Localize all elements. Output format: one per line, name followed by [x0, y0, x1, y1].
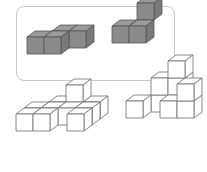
solid-tripod-shape	[112, 0, 162, 43]
solid-z-shape	[27, 25, 94, 54]
puzzle-figure	[0, 0, 207, 172]
wire-shape-b	[126, 55, 202, 118]
wire-shape-a	[16, 79, 108, 131]
cube-drawing	[0, 0, 207, 172]
